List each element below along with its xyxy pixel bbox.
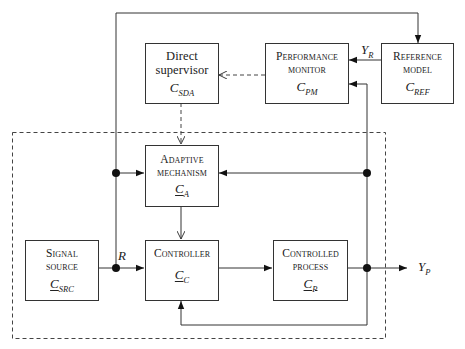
signal-label-yp: YP <box>418 259 430 277</box>
junction-dot <box>363 169 371 177</box>
block-title: mechanism <box>157 166 207 179</box>
performance-monitor-block: Performance monitor CPM <box>265 43 349 104</box>
block-title: monitor <box>288 63 326 76</box>
block-symbol: CREF <box>405 80 429 97</box>
junction-dot <box>112 264 120 272</box>
reference-model-block: Reference model CREF <box>381 43 454 104</box>
block-title: supervisor <box>155 63 208 77</box>
signal-label-yr: YR <box>361 42 373 60</box>
direct-supervisor-block: Direct supervisor CSDA <box>145 43 219 104</box>
block-title: Reference <box>393 50 442 63</box>
junction-dot <box>112 169 120 177</box>
block-symbol: CSRC <box>50 277 74 294</box>
block-title: process <box>293 260 328 273</box>
block-symbol: CSDA <box>170 81 194 98</box>
signal-source-block: Signal source CSRC <box>25 240 99 301</box>
block-title: Controller <box>154 247 210 260</box>
block-symbol: CC <box>175 268 189 285</box>
block-symbol: CP <box>304 277 318 294</box>
signal-label-r: R <box>118 248 126 264</box>
junction-dot <box>363 264 371 272</box>
block-title: Direct <box>166 49 198 63</box>
block-title: Controlled <box>282 247 339 260</box>
block-symbol: CPM <box>297 80 318 97</box>
block-symbol: CA <box>175 182 189 199</box>
block-title: Signal <box>46 247 78 260</box>
block-title: Performance <box>276 50 338 63</box>
block-title: Adaptive <box>160 153 203 166</box>
adaptive-mechanism-block: Adaptive mechanism CA <box>145 145 219 207</box>
yp-to-monitor-line <box>349 84 367 268</box>
block-title: model <box>403 63 432 76</box>
controller-block: Controller CC <box>145 240 219 301</box>
controlled-process-block: Controlled process CP <box>273 240 348 301</box>
block-title: source <box>46 260 78 273</box>
